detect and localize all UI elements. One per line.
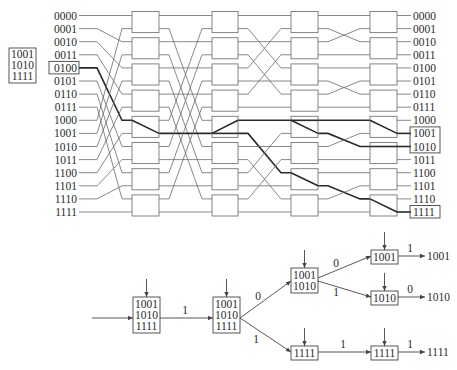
output-label: 0111 — [413, 101, 435, 113]
switch-s2-1 — [212, 38, 238, 59]
edge-l1-lower — [240, 318, 291, 352]
edge-to-1001 — [318, 256, 371, 278]
input-label: 1011 — [54, 154, 77, 166]
destination-set-box: 1001 1010 1111 — [9, 48, 36, 83]
link-wire — [79, 81, 132, 147]
switch-s3-1 — [291, 38, 318, 59]
link-wire — [318, 186, 370, 199]
input-label: 0110 — [54, 88, 77, 100]
switch-s1-7 — [132, 195, 159, 216]
arrowhead-icon — [420, 350, 425, 354]
node-label: 1111 — [374, 347, 396, 359]
arrowhead-icon — [144, 292, 148, 297]
switch-s3-0 — [291, 12, 318, 33]
switch-s2-5 — [212, 143, 238, 164]
output-label: 0101 — [413, 75, 436, 87]
output-label: 0010 — [413, 36, 436, 48]
arrowhead-icon — [420, 254, 425, 258]
input-label: 0010 — [54, 36, 77, 48]
node-label: 1111 — [216, 320, 238, 332]
network-wires — [79, 12, 411, 217]
output-label: 0110 — [413, 88, 436, 100]
arrowhead-icon — [224, 292, 228, 297]
input-label: 1110 — [55, 193, 77, 205]
input-label: 1010 — [54, 141, 77, 153]
arrowhead-icon — [382, 245, 386, 250]
link-wire — [238, 133, 291, 172]
switch-s1-2 — [132, 64, 159, 85]
switch-s4-2 — [370, 64, 397, 85]
output-label: 1000 — [413, 114, 436, 126]
arrowhead-icon — [382, 286, 386, 291]
edge-l1-upper — [240, 281, 291, 318]
edge-label: 1 — [182, 304, 188, 316]
input-label: 0011 — [54, 49, 77, 61]
link-wire — [79, 186, 132, 199]
link-wire — [238, 55, 291, 94]
link-wire — [159, 107, 212, 199]
link-wire — [238, 29, 291, 68]
switch-s1-6 — [132, 169, 159, 190]
tree-output-label: 1001 — [427, 250, 450, 262]
edge-label: 0 — [333, 257, 339, 269]
omega-network-diagram: 1001 1010 1111 0000000000010001001000100… — [0, 0, 457, 370]
node-label: 1111 — [294, 347, 316, 359]
output-label: 0000 — [413, 10, 436, 22]
link-wire — [159, 81, 212, 173]
arrowhead-icon — [302, 341, 306, 346]
edge-to-1010 — [318, 281, 371, 297]
switch-s4-1 — [370, 38, 397, 59]
link-wire — [318, 29, 370, 42]
link-wire — [159, 29, 212, 121]
switch-s3-3 — [291, 90, 318, 111]
node-label: 1010 — [293, 280, 316, 292]
arrowhead-icon — [286, 347, 291, 352]
switch-s2-0 — [212, 12, 238, 33]
output-label: 0011 — [413, 49, 436, 61]
input-label: 1000 — [54, 114, 77, 126]
output-label: 1111 — [413, 206, 435, 218]
switch-s1-0 — [132, 12, 159, 33]
switch-s2-2 — [212, 64, 238, 85]
input-label: 0000 — [54, 10, 77, 22]
node-label: 1001 — [373, 251, 396, 263]
input-label: 0001 — [54, 23, 77, 35]
edge-label: 1 — [407, 242, 413, 254]
tree-output-label: 1010 — [427, 291, 450, 303]
edge-label: 1 — [253, 333, 259, 345]
edge-label: 0 — [407, 283, 413, 295]
dest-1111: 1111 — [12, 70, 34, 82]
switch-s4-3 — [370, 90, 397, 111]
switch-s1-1 — [132, 38, 159, 59]
input-label: 1100 — [54, 167, 77, 179]
switch-s2-3 — [212, 90, 238, 111]
arrowhead-icon — [302, 263, 306, 268]
node-label: 1111 — [136, 320, 158, 332]
arrowhead-icon — [128, 316, 133, 320]
arrowhead-icon — [208, 316, 213, 320]
switch-s2-7 — [212, 195, 238, 216]
switch-s1-5 — [132, 143, 159, 164]
arrowhead-icon — [366, 293, 371, 297]
output-label: 0001 — [413, 23, 436, 35]
input-label: 1111 — [55, 206, 77, 218]
link-wire — [318, 133, 370, 146]
edge-label: 1 — [407, 338, 413, 350]
switch-s3-7 — [291, 195, 318, 216]
switch-s3-2 — [291, 64, 318, 85]
edge-label: 1 — [340, 338, 346, 350]
switch-s2-6 — [212, 169, 238, 190]
edge-label: 1 — [333, 286, 339, 298]
arrowhead-icon — [420, 295, 425, 299]
switch-s4-0 — [370, 12, 397, 33]
node-label: 1010 — [373, 292, 396, 304]
link-wire — [238, 160, 291, 199]
output-label: 1110 — [413, 193, 435, 205]
routing-tree: 1001101011111001101011111100110100111111… — [92, 232, 450, 360]
edge-label: 0 — [255, 290, 261, 302]
link-wire — [79, 81, 132, 147]
link-wire — [318, 81, 370, 94]
output-label: 1101 — [413, 180, 436, 192]
switch-s1-3 — [132, 90, 159, 111]
input-label: 0101 — [54, 75, 77, 87]
